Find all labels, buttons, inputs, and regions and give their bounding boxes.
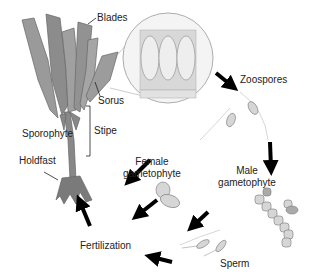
label-sorus: Sorus [98,95,124,106]
label-stipe: Stipe [94,125,117,136]
sorus-magnified-view [110,13,213,103]
label-male-gametophyte-line2: gametophyte [215,177,279,188]
label-zoospores: Zoospores [240,74,287,85]
label-holdfast: Holdfast [19,155,56,166]
label-sporophyte: Sporophyte [22,128,73,139]
sperm-cells [182,238,228,256]
kelp-sporophyte-illustration [22,14,118,204]
label-male-gametophyte-line1: Male [215,165,279,176]
label-fertilization: Fertilization [80,240,131,251]
label-blades: Blades [97,12,128,23]
label-sperm: Sperm [220,258,249,269]
male-gametophyte-cells [255,188,298,247]
kelp-life-cycle-diagram: Blades Sorus Stipe Sporophyte Holdfast Z… [0,0,315,277]
zoospores-cells [225,100,260,128]
label-female-gametophyte-line1: Female [122,156,182,167]
female-gametophyte-cells [156,182,181,210]
label-female-gametophyte-line2: gametophyte [120,168,184,179]
